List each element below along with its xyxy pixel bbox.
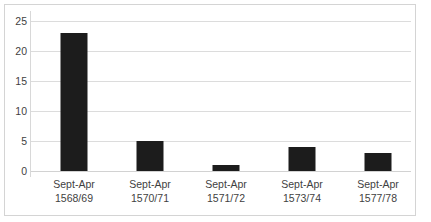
bar-1[interactable] xyxy=(137,141,164,171)
gridline-0-baseline xyxy=(31,171,411,172)
bar-3[interactable] xyxy=(289,147,316,171)
y-axis-tick-labels: 25 20 15 10 5 0 xyxy=(5,21,27,171)
x-tick-label-4-line2: 1577/78 xyxy=(333,191,423,205)
x-axis-tick-labels: Sept-Apr 1568/69 Sept-Apr 1570/71 Sept-A… xyxy=(31,177,411,211)
x-tick-label-4-line1: Sept-Apr xyxy=(333,177,423,191)
x-tick-label-4: Sept-Apr 1577/78 xyxy=(333,177,423,205)
bars-layer xyxy=(31,21,411,171)
y-tick-label-15: 15 xyxy=(5,76,27,87)
bar-2[interactable] xyxy=(213,165,240,171)
y-tick-label-5: 5 xyxy=(5,136,27,147)
chart-frame: 25 20 15 10 5 0 Sept-Apr 1568/69 Sept-Ap… xyxy=(4,4,416,216)
y-tick-label-0: 0 xyxy=(5,166,27,177)
y-tick-label-10: 10 xyxy=(5,106,27,117)
bar-4[interactable] xyxy=(365,153,392,171)
y-tick-label-25: 25 xyxy=(5,16,27,27)
bar-0[interactable] xyxy=(61,33,88,171)
y-tick-label-20: 20 xyxy=(5,46,27,57)
